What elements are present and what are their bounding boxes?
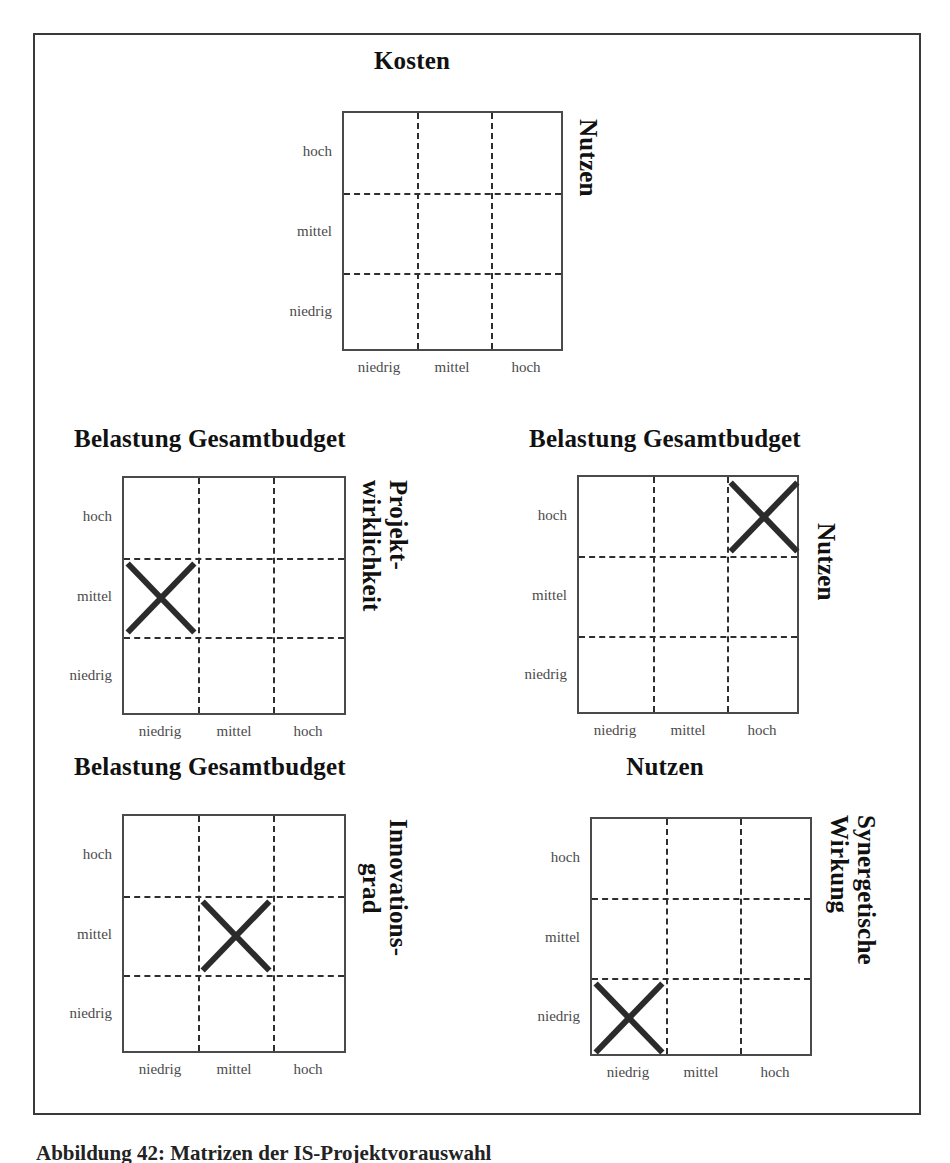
x-tick-hoch: hoch <box>293 723 322 740</box>
figure-frame: Kosten hoch mittel niedrig niedrig mitte… <box>33 33 921 1115</box>
gridline-horizontal-2 <box>579 636 797 638</box>
matrix-budget-nutzen: Belastung Gesamtbudget hoch mittel niedr… <box>500 425 890 745</box>
y-tick-hoch: hoch <box>551 849 580 866</box>
x-marker-stroke-b <box>728 480 799 553</box>
y-tick-hoch: hoch <box>83 508 112 525</box>
matrix-nutzen-synergie: Nutzen hoch mittel niedrig niedrig mitte… <box>500 753 890 1083</box>
y-axis-tick-labels: hoch mittel niedrig <box>500 475 567 714</box>
y-tick-hoch: hoch <box>538 507 567 524</box>
gridline-horizontal-1 <box>579 556 797 558</box>
y-axis-caption-line-2: wirklichkeit <box>358 480 384 612</box>
matrix-grid <box>122 476 346 715</box>
matrix-budget-projektwirklichkeit: Belastung Gesamtbudget hoch mittel niedr… <box>45 425 435 745</box>
figure-caption: Abbildung 42: Matrizen der IS-Projektvor… <box>36 1141 736 1163</box>
y-tick-hoch: hoch <box>83 846 112 863</box>
gridline-vertical-1 <box>666 819 668 1054</box>
gridline-vertical-2 <box>273 478 275 713</box>
matrix-title: Belastung Gesamtbudget <box>45 425 375 453</box>
y-tick-mittel: mittel <box>297 223 332 240</box>
x-tick-hoch: hoch <box>511 359 540 376</box>
x-tick-mittel: mittel <box>217 1061 252 1078</box>
y-axis-caption-line-1: Synergetische <box>853 815 879 965</box>
gridline-vertical-1 <box>198 478 200 713</box>
x-tick-mittel: mittel <box>435 359 470 376</box>
x-marker <box>198 896 273 975</box>
y-tick-mittel: mittel <box>77 926 112 943</box>
gridline-horizontal-1 <box>124 558 344 560</box>
y-tick-mittel: mittel <box>532 587 567 604</box>
matrix-budget-innovationsgrad: Belastung Gesamtbudget hoch mittel niedr… <box>45 753 435 1083</box>
y-axis-tick-labels: hoch mittel niedrig <box>45 814 112 1053</box>
y-axis-caption-line-1: Innovations- <box>385 819 411 956</box>
x-tick-niedrig: niedrig <box>607 1064 650 1081</box>
gridline-vertical-2 <box>491 113 493 349</box>
x-tick-niedrig: niedrig <box>139 1061 182 1078</box>
y-axis-caption-line-2: Wirkung <box>826 815 852 913</box>
y-tick-niedrig: niedrig <box>70 667 113 684</box>
x-marker <box>124 558 198 637</box>
y-tick-niedrig: niedrig <box>538 1008 581 1025</box>
x-marker-stroke-a <box>593 981 664 1054</box>
x-marker-stroke-b <box>200 899 271 972</box>
x-tick-niedrig: niedrig <box>594 722 637 739</box>
x-tick-niedrig: niedrig <box>358 359 401 376</box>
y-tick-niedrig: niedrig <box>70 1005 113 1022</box>
y-axis-caption: Nutzen <box>813 523 839 601</box>
y-tick-hoch: hoch <box>303 143 332 160</box>
gridline-horizontal-1 <box>344 193 561 195</box>
gridline-horizontal-2 <box>124 975 344 977</box>
x-marker-stroke-a <box>200 899 271 972</box>
matrix-title: Belastung Gesamtbudget <box>500 425 830 453</box>
y-tick-niedrig: niedrig <box>290 303 333 320</box>
x-marker <box>592 978 666 1058</box>
y-tick-mittel: mittel <box>77 588 112 605</box>
x-tick-hoch: hoch <box>747 722 776 739</box>
gridline-horizontal-1 <box>592 898 810 900</box>
gridline-vertical-2 <box>740 819 742 1054</box>
matrix-title: Nutzen <box>500 753 830 781</box>
x-marker <box>727 477 801 556</box>
x-tick-mittel: mittel <box>684 1064 719 1081</box>
gridline-horizontal-1 <box>124 896 344 898</box>
x-marker-stroke-b <box>593 981 664 1054</box>
y-axis-tick-labels: hoch mittel niedrig <box>500 817 580 1056</box>
x-tick-mittel: mittel <box>217 723 252 740</box>
x-tick-hoch: hoch <box>760 1064 789 1081</box>
y-tick-mittel: mittel <box>545 929 580 946</box>
matrix-grid <box>577 475 799 714</box>
matrix-kosten-nutzen: Kosten hoch mittel niedrig niedrig mitte… <box>232 47 592 367</box>
x-marker-stroke-a <box>125 561 196 634</box>
x-tick-hoch: hoch <box>293 1061 322 1078</box>
matrix-title: Kosten <box>232 47 592 75</box>
y-axis-caption-line-2: grad <box>358 863 384 914</box>
y-tick-niedrig: niedrig <box>525 666 568 683</box>
gridline-vertical-1 <box>417 113 419 349</box>
matrix-grid <box>122 814 346 1053</box>
matrix-title: Belastung Gesamtbudget <box>45 753 375 781</box>
y-axis-caption-line-1: Projekt- <box>385 480 411 570</box>
gridline-vertical-2 <box>273 816 275 1051</box>
gridline-vertical-1 <box>653 477 655 712</box>
y-axis-tick-labels: hoch mittel niedrig <box>45 476 112 715</box>
x-tick-mittel: mittel <box>671 722 706 739</box>
gridline-horizontal-2 <box>124 637 344 639</box>
y-axis-tick-labels: hoch mittel niedrig <box>232 111 332 351</box>
gridline-horizontal-2 <box>592 978 810 980</box>
x-marker-stroke-b <box>125 561 196 634</box>
x-tick-niedrig: niedrig <box>139 723 182 740</box>
y-axis-caption: Nutzen <box>575 119 601 197</box>
matrix-grid <box>342 111 563 351</box>
gridline-vertical-2 <box>727 477 729 712</box>
x-marker-stroke-a <box>728 480 799 553</box>
matrix-grid <box>590 817 812 1056</box>
gridline-vertical-1 <box>198 816 200 1051</box>
gridline-horizontal-2 <box>344 273 561 275</box>
